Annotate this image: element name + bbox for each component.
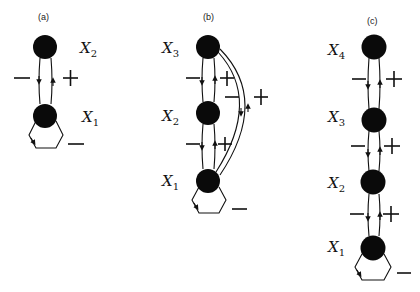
edge-x1-to-x2	[51, 58, 53, 104]
panel-label-b: (b)	[203, 12, 214, 22]
sign-plus-x1-x2	[218, 137, 232, 151]
sign-plus-x1-x3	[254, 89, 268, 105]
label-x1: X1	[327, 238, 345, 258]
node-x2	[361, 170, 386, 195]
sign-plus-x1-x2	[383, 206, 399, 222]
node-x1	[196, 169, 220, 193]
panel-a: (a) X2 X1	[14, 12, 99, 148]
edge-x4-to-x3	[368, 58, 369, 109]
node-x1	[361, 236, 386, 261]
edge-x2-to-x1	[39, 58, 40, 104]
label-x4: X4	[327, 41, 345, 61]
sign-plus-x3-x4	[386, 71, 402, 87]
label-x1: X1	[81, 108, 99, 128]
edge-x3-to-x2	[368, 131, 369, 171]
node-x4	[362, 35, 387, 60]
sign-plus-x2-x3	[220, 71, 234, 86]
sign-plus-x2-x3	[384, 138, 400, 154]
edge-x2-to-x3	[214, 58, 215, 102]
label-x2: X2	[79, 39, 97, 59]
sign-plus-x1-x2	[63, 70, 78, 86]
panel-c: (c)	[327, 16, 411, 280]
node-x1	[33, 104, 57, 128]
node-x2	[196, 101, 220, 125]
label-x2: X2	[161, 107, 179, 127]
label-x1: X1	[161, 172, 179, 192]
node-x2	[33, 35, 57, 59]
node-x3	[362, 108, 387, 133]
edge-x2-to-x1	[368, 194, 369, 236]
label-x2: X2	[327, 174, 345, 194]
node-x3	[196, 35, 220, 59]
edge-x3-to-x4	[379, 58, 380, 109]
edge-x3-to-x2	[202, 58, 203, 102]
edge-x1-to-x2	[379, 194, 380, 236]
panel-label-c: (c)	[367, 16, 378, 26]
label-x3: X3	[327, 108, 345, 128]
panel-b: (b)	[161, 12, 268, 213]
label-x3: X3	[161, 39, 179, 59]
edge-x1-to-x3	[220, 49, 248, 175]
panel-label-a: (a)	[38, 12, 49, 22]
edge-x1-to-x2	[214, 124, 215, 169]
edge-x2-to-x3	[379, 131, 380, 171]
edge-x2-to-x1	[202, 124, 203, 169]
